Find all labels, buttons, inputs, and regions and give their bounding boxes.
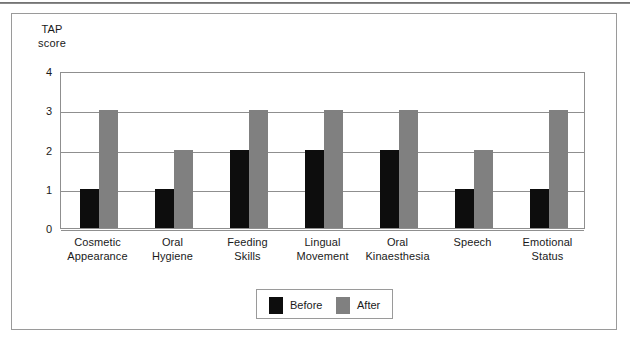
x-axis-label-line: Oral (135, 235, 210, 249)
x-axis-label-line: Oral (360, 235, 435, 249)
legend-swatch-before (269, 297, 283, 314)
bar-after (99, 110, 118, 228)
x-axis-label-line: Feeding (210, 235, 285, 249)
legend-label: Before (290, 300, 322, 311)
x-axis-label: OralKinaesthesia (360, 235, 435, 263)
bar-group (436, 73, 511, 228)
page-top-rule (0, 2, 630, 4)
bar-before (530, 189, 549, 228)
legend-swatch-after (336, 297, 350, 314)
x-axis-category-labels: CosmeticAppearanceOralHygieneFeedingSkil… (60, 235, 585, 267)
bar-before (80, 189, 99, 228)
bar-before (380, 150, 399, 229)
bar-after (474, 150, 493, 229)
x-axis-label: Speech (435, 235, 510, 249)
bar-before (155, 189, 174, 228)
bar-before (455, 189, 474, 228)
y-axis-title: TAP score (24, 22, 80, 50)
legend-label: After (357, 300, 380, 311)
x-axis-label-line: Appearance (60, 249, 135, 263)
bar-group (136, 73, 211, 228)
gridline-0 (61, 230, 584, 231)
bars-layer (61, 73, 584, 228)
y-axis-title-line2: score (24, 36, 80, 50)
x-axis-label-line: Emotional (510, 235, 585, 249)
x-axis-label: FeedingSkills (210, 235, 285, 263)
bar-group (61, 73, 136, 228)
bar-group (511, 73, 586, 228)
y-axis-title-line1: TAP (24, 22, 80, 36)
bar-after (249, 110, 268, 228)
x-axis-label-line: Cosmetic (60, 235, 135, 249)
legend-entry-after: After (336, 296, 380, 314)
bar-after (174, 150, 193, 229)
bar-group (211, 73, 286, 228)
y-axis-tick-labels: 01234 (20, 62, 52, 242)
x-axis-label: CosmeticAppearance (60, 235, 135, 263)
y-tick-label: 3 (20, 106, 52, 117)
bar-group (361, 73, 436, 228)
x-axis-label-line: Status (510, 249, 585, 263)
plot-area (60, 72, 585, 229)
x-axis-label-line: Hygiene (135, 249, 210, 263)
bar-after (324, 110, 343, 228)
bar-before (305, 150, 324, 229)
x-axis-label-line: Movement (285, 249, 360, 263)
bar-after (549, 110, 568, 228)
legend-entry-before: Before (269, 296, 322, 314)
x-axis-label: EmotionalStatus (510, 235, 585, 263)
x-axis-label: LingualMovement (285, 235, 360, 263)
y-tick-label: 2 (20, 145, 52, 156)
y-tick-label: 1 (20, 184, 52, 195)
chart-legend: BeforeAfter (256, 289, 393, 319)
y-tick-label: 4 (20, 67, 52, 78)
x-axis-label-line: Lingual (285, 235, 360, 249)
x-axis-label: OralHygiene (135, 235, 210, 263)
x-axis-label-line: Kinaesthesia (360, 249, 435, 263)
x-axis-label-line: Speech (435, 235, 510, 249)
y-tick-label: 0 (20, 224, 52, 235)
bar-group (286, 73, 361, 228)
bar-after (399, 110, 418, 228)
x-axis-label-line: Skills (210, 249, 285, 263)
bar-before (230, 150, 249, 229)
